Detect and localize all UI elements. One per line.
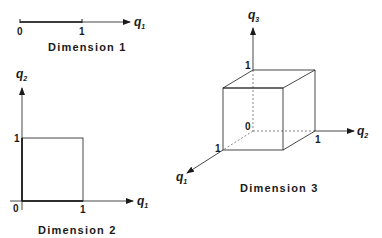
dimension-2-caption: Dimension 2 xyxy=(38,224,117,236)
q1-axis-label: q1 xyxy=(134,15,145,30)
q1-axis-label: q1 xyxy=(176,170,187,185)
q3-axis-label: q3 xyxy=(248,8,259,23)
origin-label: 0 xyxy=(245,121,251,132)
dimension-1-panel: 0 1 q1 Dimension 1 xyxy=(17,15,145,53)
dimension-3-caption: Dimension 3 xyxy=(240,182,319,194)
dimension-2-panel: 1 0 1 q2 q1 Dimension 2 xyxy=(10,67,148,236)
hidden-edges xyxy=(223,70,315,150)
q3-tick-label-1: 1 xyxy=(245,60,251,71)
q2-axis-label: q2 xyxy=(16,67,27,82)
q2-tick-label-1: 1 xyxy=(315,134,321,145)
y-tick-label-1: 1 xyxy=(14,133,20,144)
origin-label: 0 xyxy=(13,203,19,214)
unit-square xyxy=(22,138,83,201)
dimension-1-caption: Dimension 1 xyxy=(48,41,127,53)
dimension-3-panel: 1 0 1 1 q3 q2 q1 Dimension 3 xyxy=(176,8,368,194)
tick-label-1: 1 xyxy=(79,26,85,37)
q2-axis-label: q2 xyxy=(357,124,368,139)
unit-cube xyxy=(223,70,315,150)
dimension-diagram: 0 1 q1 Dimension 1 1 0 1 q2 q1 Dimension… xyxy=(0,0,382,238)
q1-axis-label: q1 xyxy=(137,194,148,209)
q1-tick-label-1: 1 xyxy=(215,143,221,154)
x-tick-label-1: 1 xyxy=(80,204,86,215)
tick-label-0: 0 xyxy=(17,26,23,37)
